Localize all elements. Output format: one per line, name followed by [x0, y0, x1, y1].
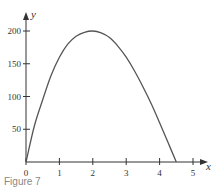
axes [23, 12, 208, 165]
y-axis-label: y [30, 8, 36, 20]
data-curve [26, 31, 176, 162]
y-axis-arrow-icon [23, 12, 29, 20]
x-tick-label: 4 [157, 168, 162, 178]
chart-canvas: 012345 50100150200 x y [0, 0, 217, 190]
x-tick-label: 3 [124, 168, 129, 178]
x-axis-label: x [205, 160, 211, 172]
y-tick-label: 100 [8, 92, 22, 102]
y-ticks: 50100150200 [8, 26, 31, 134]
figure-caption: Figure 7 [4, 176, 41, 187]
x-tick-label: 1 [57, 168, 62, 178]
y-tick-label: 150 [8, 59, 22, 69]
y-tick-label: 200 [8, 26, 22, 36]
x-tick-label: 5 [191, 168, 196, 178]
x-ticks: 012345 [24, 158, 196, 178]
x-tick-label: 2 [91, 168, 96, 178]
y-tick-label: 50 [12, 124, 22, 134]
